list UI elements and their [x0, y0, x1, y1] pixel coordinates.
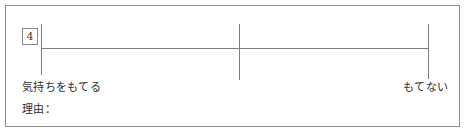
scale-anchor-label-right: もてない	[403, 78, 448, 94]
scanned-form-page: 4 気持ちをもてる もてない 理由：	[0, 0, 468, 135]
scale-tick-left[interactable]	[41, 24, 42, 75]
scale-baseline	[41, 48, 429, 49]
reason-prompt-label: 理由：	[22, 100, 56, 116]
form-frame: 4 気持ちをもてる もてない 理由：	[5, 5, 460, 127]
scale-tick-right[interactable]	[428, 24, 429, 79]
scale-tick-middle[interactable]	[239, 24, 240, 80]
scale-anchor-label-left: 気持ちをもてる	[22, 78, 101, 94]
question-number-box: 4	[22, 28, 38, 45]
